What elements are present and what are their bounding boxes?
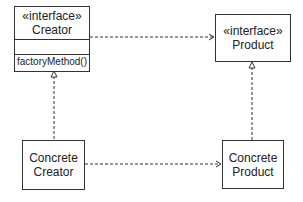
creator-operation: factoryMethod(): [15, 54, 89, 69]
product-class: «interface» Product: [215, 14, 291, 62]
creator-attributes: [15, 39, 89, 54]
concrete-creator-name-line2: Creator: [23, 165, 84, 179]
concrete-product-name-line2: Product: [223, 165, 283, 179]
concrete-product-name-line1: Concrete: [223, 151, 283, 165]
concrete-product-class: Concrete Product: [222, 140, 284, 189]
arrowhead-hollow-triangle-icon: [249, 62, 255, 68]
concrete-creator-class: Concrete Creator: [22, 140, 85, 190]
product-stereotype: «interface»: [216, 24, 290, 38]
creator-class: «interface» Creator factoryMethod(): [14, 6, 90, 72]
product-name: Product: [216, 38, 290, 52]
creator-name: Creator: [15, 23, 89, 37]
creator-stereotype: «interface»: [15, 9, 89, 23]
concrete-creator-name-line1: Concrete: [23, 151, 84, 165]
